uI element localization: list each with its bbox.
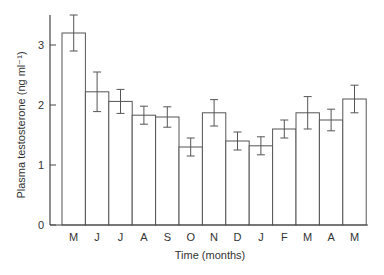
x-tick-label: M	[69, 231, 78, 243]
x-tick-label: M	[303, 231, 312, 243]
bar	[109, 101, 132, 225]
y-tick-label: 3	[38, 39, 44, 51]
bar-chart: 0123 MJJASONDJFMAM Time (months) Plasma …	[0, 0, 384, 275]
y-ticks: 0123	[38, 39, 56, 231]
x-tick-label: A	[327, 231, 335, 243]
x-tick-label: J	[118, 231, 124, 243]
x-tick-labels: MJJASONDJFMAM	[69, 231, 359, 243]
bar	[296, 113, 319, 225]
bar	[249, 146, 272, 225]
bars-group	[62, 33, 366, 225]
bar	[343, 99, 366, 225]
bar	[132, 115, 155, 225]
bar	[319, 120, 342, 225]
bar	[202, 113, 225, 225]
x-tick-label: J	[94, 231, 100, 243]
bar	[273, 129, 296, 225]
y-tick-label: 0	[38, 219, 44, 231]
x-tick-label: S	[164, 231, 171, 243]
bar	[226, 141, 249, 225]
bar	[179, 147, 202, 225]
bar	[62, 33, 85, 225]
x-tick-label: O	[186, 231, 195, 243]
x-tick-label: M	[350, 231, 359, 243]
x-tick-label: D	[234, 231, 242, 243]
bar	[156, 117, 179, 225]
x-tick-label: N	[210, 231, 218, 243]
x-tick-label: A	[140, 231, 148, 243]
x-axis-label: Time (months)	[175, 249, 246, 261]
y-axis-label: Plasma testosterone (ng ml⁻¹)	[15, 51, 27, 198]
y-tick-label: 2	[38, 99, 44, 111]
x-tick-label: J	[258, 231, 264, 243]
x-tick-label: F	[281, 231, 288, 243]
y-tick-label: 1	[38, 159, 44, 171]
